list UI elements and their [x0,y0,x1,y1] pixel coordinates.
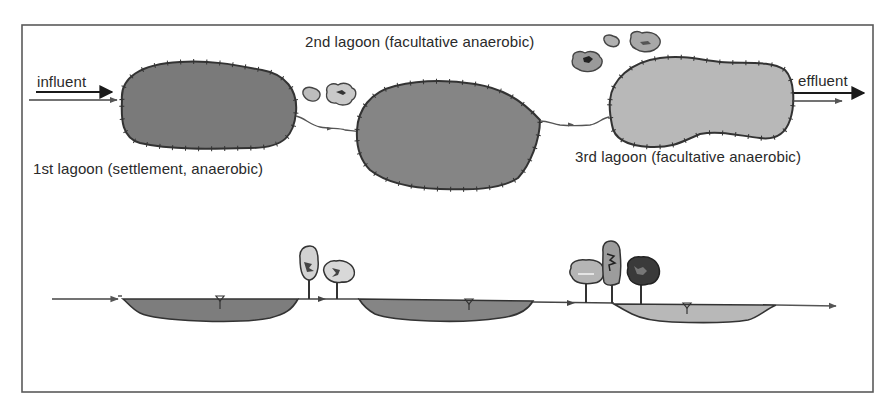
lagoon-2-section-basin [359,299,533,321]
influent-arrow-icon [29,92,117,100]
lagoon-1-label: 1st lagoon (settlement, anaerobic) [33,160,263,177]
tree-icon [300,246,318,299]
lagoon-2-label: 2nd lagoon (facultative anaerobic) [305,33,534,50]
diagram-canvas [0,0,895,410]
lagoon-system-diagram: influent 1st lagoon (settlement, anaerob… [0,0,895,410]
lagoon-1-plan-shape [122,62,296,149]
effluent-label: effluent [798,72,848,89]
influent-label: influent [37,73,86,90]
tree-icon [627,257,659,304]
section-outflow-arrow-icon [776,305,836,306]
flow-connector-2-3 [540,117,609,126]
lagoon-2-plan-shape [357,81,540,189]
lagoon-3-label: 3rd lagoon (facultative anaerobic) [575,148,801,165]
tree-icon [603,241,621,303]
lagoon-3-section-basin [614,304,776,323]
shrub-icon [303,83,356,105]
effluent-arrow-icon [792,93,864,101]
lagoon-3-plan-shape [610,57,794,147]
lagoon-1-section-basin [123,299,298,322]
tree-icon [324,260,355,299]
tree-icon [570,260,604,303]
